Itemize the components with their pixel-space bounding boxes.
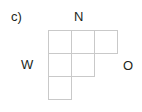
polyomino-cell [95,31,118,54]
polyomino-cells [49,31,118,100]
polyomino-cell [49,54,72,77]
polyomino-cell [72,31,95,54]
figure-panel: c) N W O [0,0,142,112]
polyomino-cell [49,77,72,100]
direction-label-north: N [74,10,83,23]
polyomino-cell [49,31,72,54]
direction-label-other: O [123,59,133,72]
direction-label-west: W [21,58,33,71]
figure-label: c) [11,10,22,23]
polyomino-grid-svg [48,30,117,101]
polyomino-cell [72,54,95,77]
polyomino-grid [48,30,117,101]
